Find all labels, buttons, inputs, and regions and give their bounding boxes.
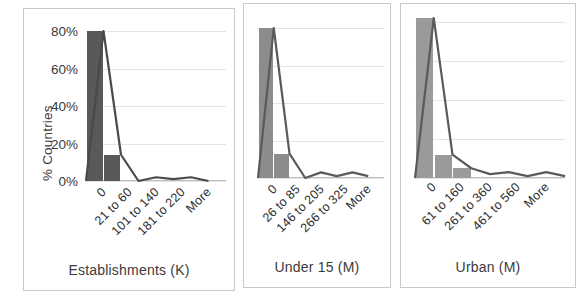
y-tick-label: 60%	[38, 61, 78, 76]
x-tick-labels-establishments: 021 to 60101 to 140181 to 220More	[86, 185, 226, 255]
plot-area-urban	[415, 22, 565, 178]
x-tick-label: More	[183, 185, 214, 216]
chart-panel-establishments: % Countries 0%20%40%60%80% 021 to 60101 …	[23, 8, 235, 291]
plot-area-under-15	[258, 28, 384, 178]
y-tick-label: 80%	[38, 24, 78, 39]
gridline	[258, 178, 384, 179]
y-tick-label: 40%	[38, 99, 78, 114]
x-axis-title-under-15: Under 15 (M)	[244, 259, 390, 275]
gridline	[415, 178, 565, 179]
x-tick-label: More	[344, 182, 375, 213]
histogram-panel-figure: % Countries 0%20%40%60%80% 021 to 60101 …	[0, 0, 579, 300]
x-axis-title-urban: Urban (M)	[401, 259, 575, 275]
x-tick-label: 0	[94, 185, 109, 200]
chart-panel-urban: 061 to 160261 to 360461 to 560More Urban…	[400, 3, 576, 288]
line-series	[258, 28, 384, 178]
x-tick-label: 0	[265, 182, 280, 197]
x-tick-labels-under-15: 026 to 85146 to 205266 to 325More	[258, 182, 384, 252]
line-series	[86, 31, 226, 181]
chart-panel-under-15: 026 to 85146 to 205266 to 325More Under …	[243, 3, 391, 288]
x-tick-label: 0	[424, 180, 439, 195]
x-tick-label: More	[521, 180, 552, 211]
x-tick-labels-urban: 061 to 160261 to 360461 to 560More	[415, 180, 565, 250]
y-tick-label: 20%	[38, 136, 78, 151]
plot-area-establishments: 0%20%40%60%80%	[86, 31, 226, 181]
y-tick-label: 0%	[38, 174, 78, 189]
x-axis-title-establishments: Establishments (K)	[24, 262, 234, 278]
line-series	[415, 22, 565, 178]
